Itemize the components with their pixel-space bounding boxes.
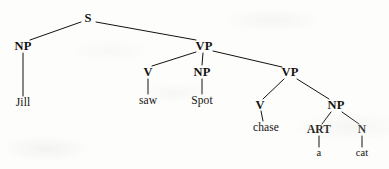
- word-saw: saw: [139, 95, 157, 107]
- node-vp-inner: VP: [282, 66, 299, 79]
- edge-vp_outer-to-v_saw: [152, 52, 196, 66]
- word-spot: Spot: [191, 95, 213, 107]
- node-art: ART: [307, 124, 331, 136]
- node-v-chase: V: [255, 99, 264, 112]
- edge-vp_inner-to-np_object: [297, 79, 329, 99]
- edge-np_object-to-n: [342, 112, 359, 124]
- word-jill: Jill: [16, 97, 30, 109]
- edge-v_chase-to-chase: [261, 111, 263, 121]
- word-cat: cat: [356, 148, 369, 159]
- node-n: N: [358, 124, 366, 136]
- edge-vp_outer-to-vp_inner: [213, 51, 282, 67]
- node-v-saw: V: [143, 66, 152, 79]
- edge-s-to-vp_outer: [96, 22, 196, 40]
- node-vp-outer: VP: [196, 40, 213, 53]
- edge-np_object-to-art: [322, 112, 331, 124]
- edge-s-to-np_subject: [30, 22, 81, 40]
- node-np-object: NP: [328, 99, 345, 112]
- node-np-spot: NP: [194, 66, 211, 79]
- parse-tree-figure: S NP Jill VP V saw NP Spot VP V chase NP…: [0, 0, 389, 169]
- node-np-subject: NP: [15, 40, 32, 53]
- edge-vp_inner-to-v_chase: [263, 79, 284, 99]
- node-s: S: [84, 12, 91, 25]
- tree-edges: [0, 0, 389, 169]
- edge-vp_outer-to-np_spot: [202, 53, 203, 65]
- word-chase: chase: [253, 122, 279, 134]
- word-a: a: [317, 148, 322, 159]
